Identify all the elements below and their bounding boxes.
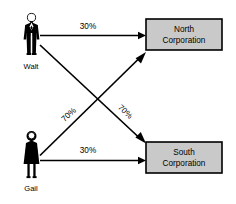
walt-shoe-right-icon [32, 53, 37, 55]
south-corporation-box[interactable] [146, 142, 222, 173]
south-corporation-node[interactable]: South Corporation [146, 142, 222, 173]
walt-head-icon [27, 13, 35, 21]
gail-shoe-right-icon [33, 176, 37, 178]
north-corporation-node[interactable]: North Corporation [146, 19, 222, 50]
south-corporation-line1: South [173, 148, 195, 157]
male-person-icon [24, 13, 40, 55]
gail-leg-right-icon [33, 163, 35, 177]
edge-walt-south-arrowhead [135, 132, 146, 144]
north-corporation-line1: North [174, 25, 194, 34]
edge-walt-south [40, 45, 146, 144]
female-person-icon [24, 131, 40, 178]
south-corporation-line2: Corporation [163, 159, 206, 168]
edge-walt-south-line [40, 45, 139, 138]
walt-label: Walt [24, 62, 40, 71]
ownership-diagram: Walt Gail North Corporation [0, 0, 236, 204]
diagram-canvas: Walt Gail North Corporation [0, 0, 236, 204]
edge-walt-north [40, 32, 146, 39]
edge-gail-north [40, 52, 146, 156]
gail-shoe-left-icon [27, 176, 31, 178]
gail-label: Gail [24, 184, 38, 193]
north-corporation-box[interactable] [146, 19, 222, 50]
edge-gail-south-label: 30% [80, 146, 96, 155]
north-corporation-line2: Corporation [163, 36, 206, 45]
gail-head-icon [28, 132, 35, 139]
edge-gail-south [40, 157, 146, 164]
walt-shoe-left-icon [27, 53, 32, 55]
walt-leg-left-icon [26, 32, 30, 55]
edge-gail-north-arrowhead [136, 52, 146, 64]
edge-walt-north-arrowhead [138, 32, 146, 39]
walt-leg-right-icon [32, 32, 36, 55]
edge-gail-south-arrowhead [138, 157, 146, 164]
gail-dress-icon [24, 140, 40, 164]
walt-leg-gap [31, 36, 32, 55]
gail-leg-left-icon [27, 163, 29, 177]
edge-walt-north-label: 30% [80, 22, 96, 31]
